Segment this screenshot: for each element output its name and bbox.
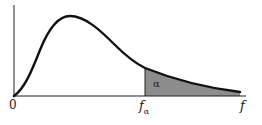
f-distribution-chart <box>0 0 262 125</box>
x-axis-variable-label: f <box>240 98 245 113</box>
alpha-area-label: α <box>153 78 160 89</box>
origin-label: 0 <box>9 98 17 112</box>
critical-value-label: fα <box>139 98 149 116</box>
density-curve <box>14 16 240 96</box>
